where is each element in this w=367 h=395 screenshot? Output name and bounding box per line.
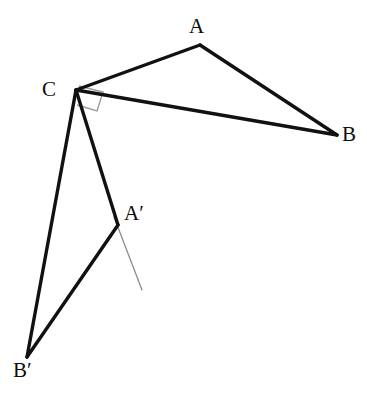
vertex-label-b-prime: B′	[13, 360, 32, 381]
vertex-label-b: B	[342, 124, 356, 145]
geometry-figure: A B C A′ B′	[0, 0, 367, 395]
vertex-label-a: A	[189, 16, 204, 37]
geometry-canvas	[0, 0, 367, 395]
vertex-label-c: C	[42, 79, 56, 100]
vertex-label-a-prime: A′	[124, 203, 144, 224]
